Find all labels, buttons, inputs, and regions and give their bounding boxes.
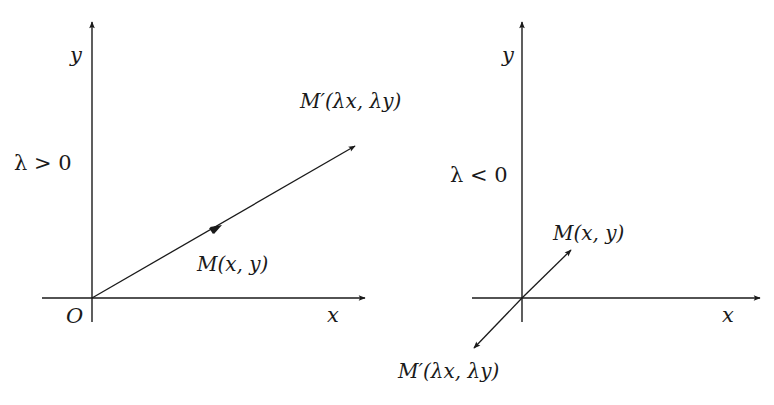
right-y-axis-label: y xyxy=(501,43,515,67)
left-mid-arrow-icon xyxy=(210,225,222,234)
scalar-multiplication-diagram: y λ > 0 O x M(x, y) M′(λx, λy) y λ < 0 x… xyxy=(0,0,774,405)
left-x-axis-label: x xyxy=(327,303,339,327)
left-point-m-label: M(x, y) xyxy=(196,252,268,276)
right-x-axis-label: x xyxy=(722,303,734,327)
right-panel: y λ < 0 x M(x, y) M′(λx, λy) xyxy=(397,22,760,383)
left-origin-label: O xyxy=(66,304,83,328)
left-condition-label: λ > 0 xyxy=(14,151,72,175)
right-point-m-label: M(x, y) xyxy=(552,221,624,245)
right-vector-om-prime xyxy=(474,298,522,348)
right-condition-label: λ < 0 xyxy=(450,163,508,187)
right-point-m-prime-label: M′(λx, λy) xyxy=(397,359,499,383)
left-panel: y λ > 0 O x M(x, y) M′(λx, λy) xyxy=(14,22,401,328)
right-vector-om xyxy=(522,250,571,298)
left-y-axis-label: y xyxy=(69,43,83,67)
left-point-m-prime-label: M′(λx, λy) xyxy=(299,89,401,113)
